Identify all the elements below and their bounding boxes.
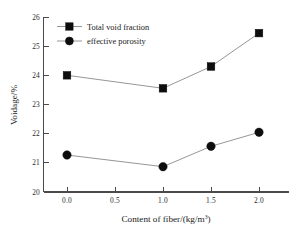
legend-square-icon [66, 23, 73, 30]
x-axis-title: Content of fiber/(kg/m3) [121, 214, 210, 224]
data-point-marker [159, 85, 167, 93]
y-tick-label: 22 [32, 129, 40, 138]
legend-item-total-void-fraction: Total void fraction [57, 23, 150, 32]
data-point-marker [159, 163, 167, 171]
x-tick-label: 1.5 [206, 196, 216, 205]
y-axis-tick-labels: 20 21 22 23 24 25 26 [32, 13, 40, 197]
data-point-marker [207, 142, 215, 150]
y-tick-label: 20 [32, 188, 40, 197]
y-axis-ticks [44, 17, 49, 192]
data-point-marker [63, 72, 71, 80]
x-tick-label: 1.0 [158, 196, 168, 205]
x-axis-tick-labels: 0.0 0.5 1.0 1.5 2.0 [62, 196, 264, 205]
x-axis-title-base: Content of fiber/(kg/m [121, 214, 204, 224]
y-tick-label: 25 [32, 42, 40, 51]
chart-legend: Total void fraction effective porosity [57, 23, 150, 46]
x-tick-label: 0.0 [62, 196, 72, 205]
data-point-marker [255, 128, 263, 136]
legend-circle-icon [65, 37, 73, 45]
legend-item-effective-porosity: effective porosity [57, 37, 146, 46]
y-tick-label: 26 [32, 13, 40, 22]
x-axis-title-tail: ) [207, 214, 210, 224]
chart-container: 20 21 22 23 24 25 26 0.0 0.5 1.0 1.5 2.0… [0, 0, 299, 234]
series-line-effective-porosity [67, 132, 259, 166]
legend-label: effective porosity [87, 37, 146, 46]
line-chart: 20 21 22 23 24 25 26 0.0 0.5 1.0 1.5 2.0… [0, 0, 299, 234]
y-axis-title: Voidage/% [9, 85, 19, 125]
data-point-marker [207, 63, 215, 71]
y-tick-label: 24 [32, 71, 40, 80]
x-tick-label: 0.5 [110, 196, 120, 205]
data-point-marker [63, 151, 71, 159]
x-axis-ticks [67, 187, 259, 192]
series-effective-porosity [63, 128, 263, 171]
x-tick-label: 2.0 [254, 196, 264, 205]
legend-label: Total void fraction [87, 23, 150, 32]
y-tick-label: 23 [32, 100, 40, 109]
data-point-marker [255, 29, 263, 37]
y-tick-label: 21 [32, 158, 40, 167]
